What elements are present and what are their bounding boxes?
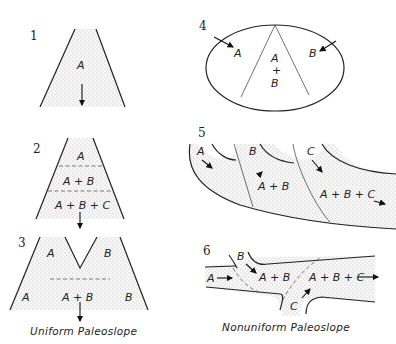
label-b: B — [309, 47, 317, 60]
panel-number: 3 — [18, 236, 26, 250]
panel-number: 1 — [30, 29, 38, 43]
panel-number: 2 — [33, 142, 41, 156]
label-b: B — [125, 291, 133, 304]
label-a: A — [196, 145, 205, 158]
channel-fill — [189, 144, 396, 229]
boundary-line — [275, 25, 309, 95]
label-c: C — [290, 300, 298, 313]
panel-2: 2 A A + B A + B + C — [33, 138, 124, 228]
panel-3: 3 A B A A + B B — [10, 236, 148, 321]
label-a: A — [46, 247, 55, 260]
label-a-plus-b: A + B — [62, 175, 94, 188]
label-b: B — [104, 247, 112, 260]
inflow-arrow-b-icon — [320, 41, 336, 51]
panel-number: 5 — [198, 126, 206, 140]
panel-5: 5 A B C A + B A + B + C — [189, 126, 396, 229]
label-c: C — [307, 145, 315, 158]
label-a-plus-b: A + B — [61, 291, 93, 304]
label-plus: + — [272, 64, 281, 77]
label-a-plus-b-plus-c: A + B + C — [308, 271, 364, 284]
label-a: A — [233, 47, 242, 60]
panel-number: 4 — [199, 19, 207, 33]
label-a-plus-b: A + B — [258, 271, 290, 284]
label-a: A — [76, 150, 85, 163]
label-b: B — [271, 77, 279, 90]
label-b: B — [237, 250, 245, 263]
panel-4: 4 A B A + B — [199, 19, 344, 111]
label-a-plus-b-plus-c: A + B + C — [319, 188, 375, 201]
caption-uniform-paleoslope: Uniform Paleoslope — [30, 325, 137, 337]
label-a-plus-b: A + B — [257, 180, 289, 193]
caption-nonuniform-paleoslope: Nonuniform Paleoslope — [222, 321, 350, 333]
paleoslope-diagram: 1 A 2 A A + B A + B + C 3 A B A A + B B … — [0, 0, 396, 344]
label-a: A — [206, 272, 215, 285]
boundary-line — [241, 25, 275, 97]
label-a: A — [21, 291, 30, 304]
panel-1: 1 A — [30, 29, 125, 107]
label-b: B — [249, 145, 257, 158]
label-a: A — [76, 59, 85, 72]
label-a-plus-b-plus-c: A + B + C — [54, 199, 110, 212]
panel-number: 6 — [203, 244, 211, 258]
panel-6: 6 B A A + B A + B + C C — [203, 244, 378, 316]
